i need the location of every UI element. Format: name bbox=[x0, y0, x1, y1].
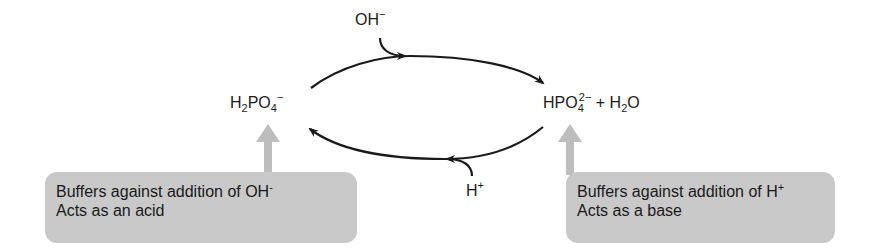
reverse-reaction-arrow bbox=[310, 127, 543, 159]
species-dihydrogen-phosphate: H2PO4− bbox=[230, 94, 283, 112]
h-input-hook-arrow bbox=[447, 159, 472, 176]
acid-callout-line1: Buffers against addition of OH- bbox=[56, 182, 357, 201]
right-block-arrow bbox=[558, 124, 582, 175]
oh-input-hook-arrow bbox=[380, 38, 405, 56]
base-callout-line1: Buffers against addition of H+ bbox=[577, 182, 835, 201]
acid-role-callout: Buffers against addition of OH- Acts as … bbox=[45, 172, 357, 243]
reagent-h-label: H+ bbox=[466, 182, 484, 200]
base-callout-line2: Acts as a base bbox=[577, 201, 835, 220]
base-role-callout: Buffers against addition of H+ Acts as a… bbox=[566, 172, 835, 243]
acid-callout-line2: Acts as an acid bbox=[56, 201, 357, 220]
left-block-arrow bbox=[256, 124, 280, 175]
species-hydrogen-phosphate-water: HPO42− + H2O bbox=[543, 94, 640, 112]
reagent-oh-label: OH− bbox=[355, 11, 385, 29]
forward-reaction-arrow bbox=[311, 56, 543, 88]
